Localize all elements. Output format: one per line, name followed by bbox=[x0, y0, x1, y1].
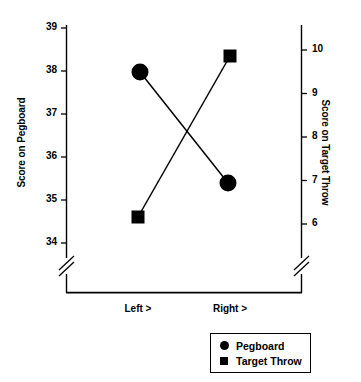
x-axis-label-right: Right > bbox=[195, 303, 265, 314]
square-marker-icon bbox=[217, 357, 231, 365]
left-tick-label-37: 37 bbox=[31, 107, 57, 118]
right-tick-label-7: 7 bbox=[312, 174, 338, 185]
series-line-pegboard bbox=[140, 72, 228, 183]
right-axis-title: Score on Target Throw bbox=[320, 87, 331, 219]
x-axis-label-left: Left > bbox=[103, 303, 173, 314]
interaction-plot-figure: Score on Pegboard Score on Target Throw … bbox=[0, 0, 361, 382]
circle-marker-icon bbox=[217, 341, 231, 350]
plot-canvas bbox=[0, 0, 361, 382]
legend: Pegboard Target Throw bbox=[210, 333, 311, 373]
legend-label-pegboard: Pegboard bbox=[231, 340, 284, 352]
right-tick-label-8: 8 bbox=[312, 130, 338, 141]
left-axis-break-icon bbox=[59, 256, 74, 276]
left-axis-title: Score on Pegboard bbox=[16, 79, 27, 207]
left-axis-ticks bbox=[61, 28, 67, 243]
legend-label-target-throw: Target Throw bbox=[231, 355, 302, 367]
right-tick-label-6: 6 bbox=[312, 217, 338, 228]
data-point-pegboard-right bbox=[220, 175, 237, 192]
right-axis-ticks bbox=[302, 50, 308, 224]
data-point-target-throw-left bbox=[132, 211, 145, 224]
right-axis-break-icon bbox=[294, 256, 309, 276]
legend-item-target-throw: Target Throw bbox=[217, 353, 302, 368]
data-point-target-throw-right bbox=[224, 50, 237, 63]
legend-item-pegboard: Pegboard bbox=[217, 338, 302, 353]
series-line-target-throw bbox=[138, 56, 230, 217]
data-point-pegboard-left bbox=[132, 64, 149, 81]
left-tick-label-35: 35 bbox=[31, 193, 57, 204]
left-tick-label-39: 39 bbox=[31, 21, 57, 32]
left-tick-label-38: 38 bbox=[31, 64, 57, 75]
left-tick-label-34: 34 bbox=[31, 236, 57, 247]
left-tick-label-36: 36 bbox=[31, 150, 57, 161]
right-tick-label-9: 9 bbox=[312, 87, 338, 98]
right-tick-label-10: 10 bbox=[312, 43, 338, 54]
